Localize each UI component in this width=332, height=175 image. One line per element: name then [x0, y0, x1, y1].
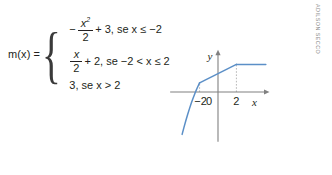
tick-labels: −2 0 2	[194, 95, 239, 107]
function-name-label: m(x) =	[8, 48, 41, 60]
y-axis-label: y	[207, 50, 213, 62]
case-2-fraction: x 2	[70, 49, 82, 74]
x-tick-label-origin: 0	[206, 95, 212, 107]
piecewise-formula: m(x) = { − x2 2 + 3, se x ≤ −2 x 2 + 2, …	[8, 6, 168, 101]
case-2-condition: + 2, se −2 < x ≤ 2	[84, 56, 169, 67]
x-axis-arrowhead	[264, 89, 270, 94]
case-row-1: − x2 2 + 3, se x ≤ −2	[69, 16, 169, 43]
y-axis-arrowhead	[215, 50, 220, 56]
case-list: − x2 2 + 3, se x ≤ −2 x 2 + 2, se −2 < x…	[65, 16, 169, 91]
case-2-denominator: 2	[70, 61, 82, 74]
case-1-condition: + 3, se x ≤ −2	[95, 24, 162, 35]
case-3-expression: 3, se x > 2	[69, 80, 120, 91]
case-2-numerator: x	[71, 49, 83, 61]
case-1-fraction: x2 2	[78, 16, 93, 43]
x-tick-label-pos2: 2	[233, 95, 239, 107]
illustrator-credit: ADILSON SECCO	[314, 4, 328, 74]
case-row-2: x 2 + 2, se −2 < x ≤ 2	[69, 49, 169, 74]
credit-text: ADILSON SECCO	[315, 4, 321, 54]
curve-parabola-branch	[182, 83, 199, 135]
axis-titles: x y	[207, 50, 258, 108]
case-1-lead-sign: −	[69, 24, 75, 35]
case-1-denominator: 2	[78, 30, 93, 43]
graph-figure: −2 0 2 x y	[166, 0, 314, 175]
coordinate-plot: −2 0 2 x y	[166, 0, 314, 175]
x-axis-label: x	[251, 96, 257, 108]
case-row-3: 3, se x > 2	[69, 80, 169, 91]
case-1-numerator: x2	[78, 16, 93, 30]
case-1-numerator-exponent: 2	[86, 16, 90, 23]
